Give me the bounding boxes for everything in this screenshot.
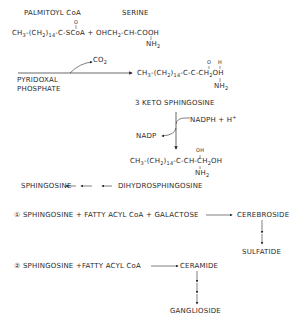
pathway1-reaction: ① SPHINGOSINE + FATTY ACYL CoA + GALACTO…: [14, 212, 199, 219]
keto-sphingosine-formula: CH3-(CH2)14-C-C-CH2OH: [137, 70, 224, 78]
palmitoyl-coa-formula: CH3-(CH2)14-C-SCoA + OHCH2-CH-COOH: [12, 30, 159, 38]
nadp-cofactor: NADP: [136, 133, 156, 140]
dihydro-oh: OH: [196, 148, 204, 153]
palmitoyl-coa-label: PALMITOYL CoA: [24, 10, 81, 17]
ceramide-label: CERAMIDE: [180, 263, 218, 270]
nadph-cofactor: NADPH + H+: [190, 115, 237, 124]
serine-amine: NH2: [146, 41, 160, 49]
dihydrosphingosine-label: DIHYDROSPHINGOSINE: [118, 183, 203, 190]
phosphate-label: PHOSPHATE: [17, 86, 61, 93]
dihydro-amine: NH2: [195, 170, 209, 178]
ganglioside-label: GANGLIOSIDE: [170, 308, 221, 315]
pathway2-reaction: ② SPHINGOSINE +FATTY ACYL CoA: [14, 263, 141, 270]
serine-label: SERINE: [122, 10, 149, 17]
co2-byproduct: CO2: [93, 57, 107, 65]
keto-h: H: [218, 60, 222, 65]
cerebroside-label: CEREBROSIDE: [237, 212, 289, 219]
dihydrosphingosine-formula: CH3-(CH2)14-C-CH-CH2OH: [130, 158, 222, 166]
keto-o: O: [207, 60, 211, 65]
palmitoyl-carbonyl-o: O: [74, 20, 78, 25]
co2-release-arrow: [70, 62, 92, 73]
sulfatide-label: SULFATIDE: [242, 249, 281, 256]
keto-sphingosine-label: 3 KETO SPHINGOSINE: [135, 100, 215, 107]
serine-formula: OHCH2-CH-COOH: [96, 29, 159, 37]
pyridoxal-label: PYRIDOXAL: [17, 77, 58, 84]
keto-amine: NH2: [214, 83, 228, 91]
sphingosine-label: SPHINGOSINE: [21, 183, 72, 190]
